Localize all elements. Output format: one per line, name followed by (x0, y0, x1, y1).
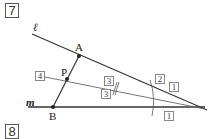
ratio-box-3-lower: 3 (101, 89, 111, 99)
tick-mark-2 (115, 82, 119, 95)
point-p-label: P (61, 67, 67, 78)
line-ell-label: ℓ (33, 22, 38, 33)
problem-number-8: 8 (5, 124, 19, 139)
ratio-box-1-upper: 1 (169, 82, 179, 92)
point-b-dot (51, 105, 55, 109)
ratio-box-4: 4 (35, 71, 45, 81)
line-ell (32, 34, 207, 110)
ratio-box-1-lower: 1 (164, 111, 174, 121)
segment-ab (53, 56, 79, 107)
point-a-dot (77, 54, 81, 58)
problem-number-7: 7 (5, 3, 19, 18)
point-a-label: A (75, 42, 83, 53)
point-b-label: B (49, 111, 56, 122)
construction-line-p (45, 77, 205, 109)
line-m-label: m (26, 97, 35, 108)
ratio-box-3-upper: 3 (104, 76, 114, 86)
ratio-box-2: 2 (155, 74, 165, 84)
